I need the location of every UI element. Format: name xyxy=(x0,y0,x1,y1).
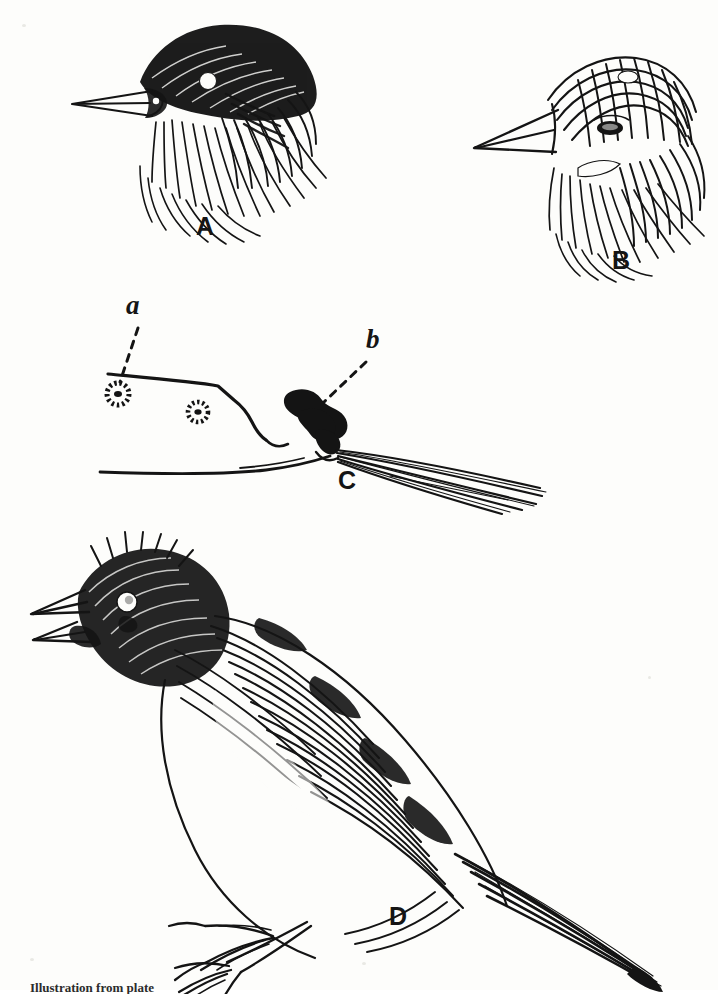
sub-label-a: a xyxy=(126,292,140,319)
figure-d: D xyxy=(15,530,715,950)
figure-b: B xyxy=(452,40,712,290)
scan-speck xyxy=(648,676,651,679)
figure-a-drawing xyxy=(40,8,330,258)
leader-line-a xyxy=(120,328,138,382)
figure-a: A xyxy=(40,8,330,258)
plate-caption: Illustration from plate xyxy=(30,980,690,994)
sub-label-b: b xyxy=(366,326,380,353)
figure-a-label: A xyxy=(196,214,214,239)
figure-d-drawing xyxy=(15,530,715,950)
figure-b-label: B xyxy=(612,248,630,273)
figure-d-label: D xyxy=(389,904,407,929)
figure-c: a b C xyxy=(90,290,620,520)
scan-speck xyxy=(30,958,34,961)
follicle-spot-1 xyxy=(107,383,129,405)
figure-b-drawing xyxy=(452,40,712,290)
scan-speck xyxy=(22,24,26,27)
figure-c-label: C xyxy=(338,468,356,493)
follicle-spot-2 xyxy=(188,402,208,422)
scan-speck xyxy=(362,962,366,965)
tail-base-tuft xyxy=(284,389,348,454)
leader-line-b xyxy=(324,362,366,402)
